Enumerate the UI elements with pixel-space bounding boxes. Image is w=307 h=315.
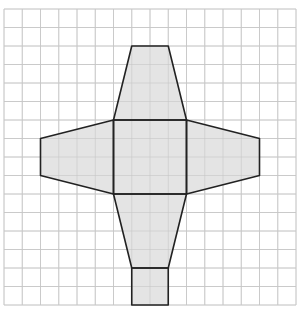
- diagram-canvas: [0, 0, 307, 315]
- net-diagram: [0, 0, 307, 315]
- grid-overlay: [4, 9, 296, 305]
